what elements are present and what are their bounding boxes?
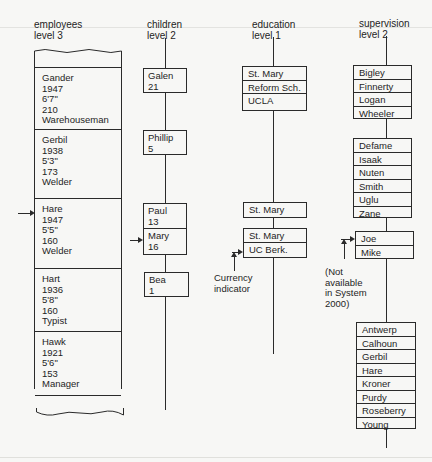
child-age: 21 [148,82,182,93]
child-pointer-arrow-icon [138,237,143,243]
employees-header: employees level 3 [34,19,82,41]
child-name: Paul [148,206,182,217]
children-title: children [147,19,182,30]
education-record-current[interactable]: UC Berk. [244,243,306,257]
supervision-record[interactable]: Hare [357,364,415,378]
employee-job: Welder [42,246,114,257]
supervision-record[interactable]: Purdy [357,391,415,405]
not-available-callout-line [344,242,345,259]
child-age: 5 [148,144,182,155]
supervision-record[interactable]: Smith [354,180,411,194]
children-group[interactable]: Bea 1 [144,272,189,297]
employee-name: Gerbil [42,135,114,146]
child-record[interactable]: Galen 21 [144,69,186,94]
supervision-record[interactable]: Logan [354,93,411,107]
education-group[interactable]: St. Mary UC Berk. [243,228,307,258]
child-pointer-line [130,240,138,241]
supervision-record[interactable]: Zane [354,207,411,221]
employee-job: Welder [42,177,114,188]
employee-job: Warehouseman [42,115,114,126]
supervision-record[interactable]: Calhoun [357,337,415,351]
currency-callout-line [234,255,235,271]
child-name: Phillip [148,133,182,144]
supervision-level: level 2 [359,29,410,40]
supervision-record[interactable]: Young [357,418,415,432]
supervision-header: supervision level 2 [359,18,410,40]
supervision-record[interactable]: Roseberry [357,404,415,418]
page-bottom-rule [0,457,432,458]
employee-name: Hare [42,204,114,215]
employee-record[interactable]: Hart 1936 5'8" 160 Typist [35,268,121,331]
children-group[interactable]: Galen 21 [143,68,187,93]
supervision-group[interactable]: Joe Mike [355,231,414,259]
employee-pointer-line [18,213,30,214]
education-record[interactable]: UCLA [243,94,306,108]
supervision-record[interactable]: Bigley [354,66,411,80]
employees-record-column: Gander 1947 6'7" 210 Warehouseman Gerbil… [34,51,122,389]
employee-name: Hawk [42,337,114,348]
children-group[interactable]: Phillip 5 [143,130,187,155]
supervision-title: supervision [359,18,410,29]
supervision-record-current[interactable]: Joe [356,232,413,246]
supervision-record[interactable]: Nuten [354,166,411,180]
children-group[interactable]: Paul 13 Mary 16 [143,203,187,255]
supervision-group[interactable]: Defame Isaak Nuten Smith Uglu Zane [353,138,412,218]
employee-record[interactable]: Hawk 1921 5'6" 153 Manager [35,331,121,395]
employee-job: Manager [42,379,114,390]
supervision-record[interactable]: Isaak [354,153,411,167]
currency-indicator-label: Currency indicator [214,273,253,294]
currency-pointer-arrow-icon [238,249,243,255]
education-record[interactable]: Reform Sch. [243,81,306,95]
employees-level: level 3 [34,30,82,41]
note-line: indicator [214,284,253,295]
child-record[interactable]: Paul 13 [144,204,186,229]
employee-name: Hart [42,274,114,285]
education-title: education [252,19,295,30]
employee-record[interactable]: Gerbil 1938 5'3" 173 Welder [35,129,121,198]
supervision-group[interactable]: Bigley Finnerty Logan Wheeler [353,65,412,119]
note-line: (Not [325,267,367,278]
supervision-record[interactable]: Uglu [354,193,411,207]
supervision-record[interactable]: Kroner [357,377,415,391]
note-line: 2000) [325,299,367,310]
not-available-label: (Not available in System 2000) [325,267,367,309]
child-record[interactable]: Phillip 5 [144,131,186,156]
employee-pointer-arrow-icon [30,210,35,216]
employee-job: Typist [42,316,114,327]
supervision-record[interactable]: Defame [354,139,411,153]
employees-bottom-rule [35,395,121,396]
supervision-group[interactable]: Antwerp Calhoun Gerbil Hare Kroner Purdy… [356,322,416,429]
supervision-pointer-arrow-icon [350,236,355,242]
education-record[interactable]: St. Mary [244,229,306,243]
child-name: Mary [148,231,182,242]
employee-record[interactable]: Gander 1947 6'7" 210 Warehouseman [35,67,121,129]
child-age: 13 [148,217,182,228]
education-group[interactable]: St. Mary Reform Sch. UCLA [242,66,307,111]
child-name: Galen [148,71,182,82]
employee-record-current[interactable]: Hare 1947 5'5" 160 Welder [35,198,121,268]
employees-title: employees [34,19,82,30]
currency-callout-arrow-icon [231,252,237,257]
education-record[interactable]: St. Mary [244,203,306,217]
child-name: Bea [149,275,184,286]
employee-name: Gander [42,73,114,84]
supervision-record[interactable]: Finnerty [354,80,411,94]
education-record[interactable]: St. Mary [243,67,306,81]
child-age: 16 [148,242,182,253]
education-group[interactable]: St. Mary [243,202,307,218]
child-record-current[interactable]: Mary 16 [144,229,186,254]
supervision-record[interactable]: Wheeler [354,107,411,121]
not-available-callout-arrow-icon [341,239,347,244]
note-line: Currency [214,273,253,284]
supervision-record[interactable]: Mike [356,246,413,260]
supervision-record[interactable]: Gerbil [357,350,415,364]
wavy-top-edge-icon [34,48,122,56]
supervision-record[interactable]: Antwerp [357,323,415,337]
child-age: 1 [149,286,184,297]
child-record[interactable]: Bea 1 [145,273,188,298]
wavy-bottom-edge-icon [36,408,124,418]
